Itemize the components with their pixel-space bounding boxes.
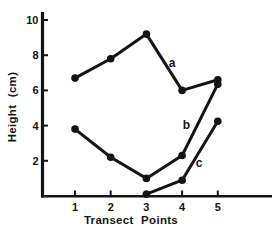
series-a-point-2 [107, 55, 115, 63]
y-tick-label-6: 6 [32, 84, 38, 96]
series-b-point-4 [178, 152, 186, 160]
x-tick-label-1: 1 [72, 201, 78, 213]
axis-ticks: 12345246810 [26, 14, 221, 213]
line-chart-figure: 12345246810 abc Height (cm) Transect Poi… [0, 0, 278, 237]
series-c-label: c [196, 156, 203, 170]
x-tick-label-3: 3 [143, 201, 149, 213]
y-tick-label-8: 8 [32, 49, 38, 61]
series-a-line [75, 34, 218, 90]
series-b-point-2 [107, 154, 115, 162]
series-a-point-3 [143, 30, 151, 38]
x-tick-label-5: 5 [215, 201, 221, 213]
x-tick-label-2: 2 [108, 201, 114, 213]
y-tick-label-2: 2 [32, 155, 38, 167]
y-axis-title: Height (cm) [6, 72, 18, 143]
y-tick-label-4: 4 [32, 120, 39, 132]
series-a-point-1 [71, 74, 79, 82]
chart-canvas: 12345246810 abc Height (cm) Transect Poi… [0, 0, 278, 237]
series-b-point-5 [214, 80, 222, 88]
x-axis-title: Transect Points [84, 214, 178, 226]
series-c-point-2 [178, 176, 186, 184]
series-c-point-3 [214, 117, 222, 125]
series-a-point-4 [178, 87, 186, 95]
series-b-point-1 [71, 125, 79, 133]
x-tick-label-4: 4 [179, 201, 186, 213]
series-b-point-3 [143, 175, 151, 183]
series-a-label: a [169, 56, 176, 70]
data-series: abc [71, 30, 221, 198]
series-c-point-1 [143, 190, 151, 198]
series-b-label: b [183, 118, 190, 132]
y-tick-label-10: 10 [26, 14, 38, 26]
